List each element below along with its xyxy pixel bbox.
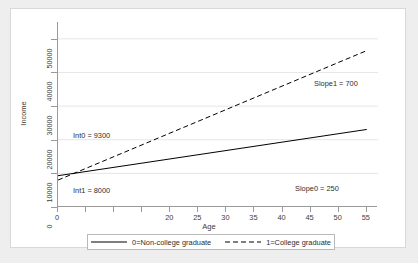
x-axis-title: Age bbox=[11, 222, 407, 231]
x-axis-label: 0 bbox=[42, 213, 72, 222]
plot-area bbox=[57, 22, 377, 207]
x-axis-tick bbox=[253, 207, 254, 212]
x-axis-label: 50 bbox=[323, 213, 353, 222]
plot-wrapper: Income 01000020000300004000050000 020253… bbox=[11, 9, 407, 249]
annotation-int1: Int1 = 8000 bbox=[73, 186, 110, 195]
x-axis-label: 40 bbox=[267, 213, 297, 222]
x-axis-label: 20 bbox=[154, 213, 184, 222]
x-axis-tick bbox=[57, 207, 58, 212]
x-axis-tick bbox=[169, 207, 170, 212]
legend-solid-line-icon bbox=[91, 239, 127, 245]
legend-item: 0=Non-college graduate bbox=[91, 238, 211, 247]
x-axis-label: 35 bbox=[238, 213, 268, 222]
chart-frame: Income 01000020000300004000050000 020253… bbox=[10, 8, 406, 248]
x-axis-tick bbox=[282, 207, 283, 212]
x-axis-label: 55 bbox=[351, 213, 381, 222]
x-axis-tick bbox=[225, 207, 226, 212]
data-lines bbox=[58, 22, 378, 207]
x-axis-tick bbox=[310, 207, 311, 212]
x-axis-tick bbox=[113, 207, 114, 212]
y-axis-label: 40000 bbox=[45, 73, 54, 111]
annotation-slope0: Slope0 = 250 bbox=[295, 184, 339, 193]
legend-label: 0=Non-college graduate bbox=[132, 238, 211, 247]
x-axis-label: 30 bbox=[210, 213, 240, 222]
y-axis-label: 20000 bbox=[45, 140, 54, 178]
legend: 0=Non-college graduate1=College graduate bbox=[87, 234, 335, 250]
annotation-int0: Int0 = 9300 bbox=[73, 131, 110, 140]
legend-label: 1=College graduate bbox=[266, 238, 331, 247]
x-axis-tick bbox=[141, 207, 142, 212]
x-axis-tick bbox=[197, 207, 198, 212]
annotation-slope1: Slope1 = 700 bbox=[314, 79, 358, 88]
x-axis-tick bbox=[338, 207, 339, 212]
y-axis-label: 50000 bbox=[45, 39, 54, 77]
x-axis-tick bbox=[85, 207, 86, 212]
y-axis-label: 30000 bbox=[45, 107, 54, 145]
legend-item: 1=College graduate bbox=[225, 238, 331, 247]
x-axis-label: 25 bbox=[182, 213, 212, 222]
y-axis-label: 10000 bbox=[45, 174, 54, 212]
x-axis-tick bbox=[366, 207, 367, 212]
y-axis-title: Income bbox=[19, 93, 28, 133]
legend-dashed-line-icon bbox=[225, 239, 261, 245]
x-axis-label: 45 bbox=[295, 213, 325, 222]
